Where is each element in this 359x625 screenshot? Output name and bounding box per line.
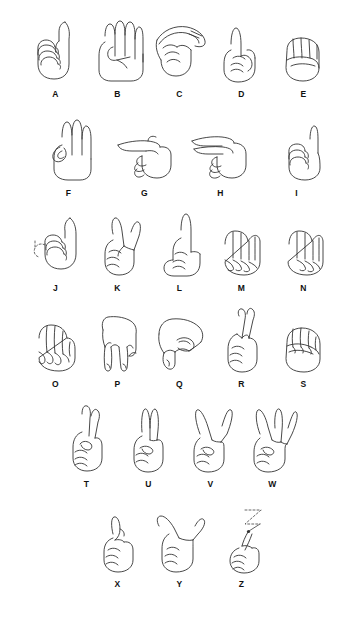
page-title: THE MANUAL ALPHABET (0, 0, 359, 1)
letter-label: K (114, 283, 120, 293)
hand-sign-a-icon (25, 14, 87, 86)
letter-cell-n[interactable]: N (273, 208, 335, 293)
letter-label: B (114, 89, 120, 99)
letter-cell-u[interactable]: U (118, 404, 180, 489)
letter-label: H (217, 188, 223, 198)
letter-label: E (301, 89, 307, 99)
letter-label: R (238, 379, 244, 389)
letter-label: A (52, 89, 58, 99)
letter-label: J (53, 283, 58, 293)
alphabet-row: T U (0, 404, 359, 489)
letter-cell-k[interactable]: K (87, 208, 149, 293)
letter-label: O (52, 379, 59, 389)
hand-sign-e-icon (273, 14, 335, 86)
letter-cell-x[interactable]: X (87, 504, 149, 589)
letter-cell-b[interactable]: B (87, 14, 149, 99)
letter-cell-l[interactable]: L (149, 208, 211, 293)
letter-cell-h[interactable]: H (183, 113, 259, 198)
alphabet-row: A B (0, 14, 359, 99)
letter-label: I (295, 188, 298, 198)
letter-label: N (300, 283, 306, 293)
letter-label: F (66, 188, 72, 198)
letter-label: D (238, 89, 244, 99)
letter-cell-g[interactable]: G (107, 113, 183, 198)
hand-sign-m-icon (211, 208, 273, 280)
letter-label: T (84, 479, 90, 489)
hand-sign-f-icon (38, 113, 100, 185)
letter-cell-j[interactable]: J (25, 208, 87, 293)
letter-label: P (115, 379, 121, 389)
alphabet-row: J K (0, 208, 359, 293)
letter-cell-z[interactable]: Z (211, 504, 273, 589)
letter-cell-f[interactable]: F (31, 113, 107, 198)
alphabet-row: X Y (0, 504, 359, 589)
letter-label: Z (239, 579, 245, 589)
hand-sign-x-icon (87, 504, 149, 576)
alphabet-row: O P (0, 304, 359, 389)
letter-label: V (208, 479, 214, 489)
hand-sign-z-icon (211, 504, 273, 576)
letter-label: C (176, 89, 182, 99)
letter-cell-e[interactable]: E (273, 14, 335, 99)
letter-label: G (141, 188, 148, 198)
manual-alphabet-chart: THE MANUAL ALPHABET A (0, 0, 359, 625)
hand-sign-r-icon (211, 304, 273, 376)
letter-label: S (301, 379, 307, 389)
hand-sign-i-icon (266, 113, 328, 185)
letter-cell-r[interactable]: R (211, 304, 273, 389)
hand-sign-t-icon (56, 404, 118, 476)
letter-cell-p[interactable]: P (87, 304, 149, 389)
hand-sign-c-icon (149, 14, 211, 86)
hand-sign-o-icon (25, 304, 87, 376)
letter-cell-a[interactable]: A (25, 14, 87, 99)
hand-sign-w-icon (242, 404, 304, 476)
letter-label: U (145, 479, 151, 489)
hand-sign-d-icon (211, 14, 273, 86)
hand-sign-h-icon (190, 113, 252, 185)
hand-sign-n-icon (273, 208, 335, 280)
letter-cell-d[interactable]: D (211, 14, 273, 99)
letter-cell-o[interactable]: O (25, 304, 87, 389)
letter-cell-v[interactable]: V (180, 404, 242, 489)
letter-cell-s[interactable]: S (273, 304, 335, 389)
letter-label: Q (176, 379, 183, 389)
letter-cell-w[interactable]: W (242, 404, 304, 489)
hand-sign-g-icon (114, 113, 176, 185)
hand-sign-j-icon (25, 208, 87, 280)
hand-sign-l-icon (149, 208, 211, 280)
letter-label: M (238, 283, 245, 293)
hand-sign-b-icon (87, 14, 149, 86)
letter-label: Y (177, 579, 183, 589)
hand-sign-q-icon (149, 304, 211, 376)
hand-sign-p-icon (87, 304, 149, 376)
letter-label: X (115, 579, 121, 589)
letter-label: L (177, 283, 183, 293)
hand-sign-s-icon (273, 304, 335, 376)
alphabet-row: F G (0, 113, 359, 198)
letter-cell-t[interactable]: T (56, 404, 118, 489)
letter-label: W (268, 479, 276, 489)
letter-cell-i[interactable]: I (259, 113, 335, 198)
letter-cell-c[interactable]: C (149, 14, 211, 99)
hand-sign-u-icon (118, 404, 180, 476)
letter-cell-y[interactable]: Y (149, 504, 211, 589)
letter-cell-m[interactable]: M (211, 208, 273, 293)
hand-sign-k-icon (87, 208, 149, 280)
letter-cell-q[interactable]: Q (149, 304, 211, 389)
hand-sign-v-icon (180, 404, 242, 476)
hand-sign-y-icon (149, 504, 211, 576)
